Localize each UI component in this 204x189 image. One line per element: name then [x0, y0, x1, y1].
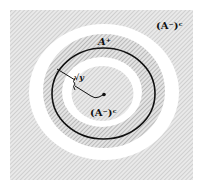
label-outer-complement: (A⁻)ᶜ [156, 20, 183, 31]
label-inner-complement: (A⁻)ᶜ [90, 107, 117, 118]
label-radius-sqrt-y: √y [74, 72, 85, 82]
label-a-plus: A⁺ [97, 36, 111, 47]
nested-regions-diagram: (A⁻)ᶜ A⁺ (A⁻)ᶜ √y [0, 0, 204, 189]
center-point [102, 93, 106, 97]
